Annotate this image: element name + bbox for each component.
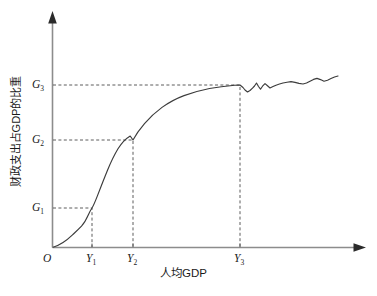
origin-label: O (43, 253, 51, 265)
x-tick-subscript-y1: 1 (92, 258, 96, 267)
x-tick-label-y3: Y3 (234, 253, 244, 265)
y-tick-subscript-g3: 3 (40, 84, 44, 93)
y-tick-subscript-g1: 1 (40, 207, 44, 216)
x-axis-arrow-icon (354, 243, 367, 252)
y-tick-label-g1: G1 (32, 202, 44, 214)
guide-line-g1-y1 (53, 208, 92, 247)
x-tick-subscript-y3: 3 (240, 258, 244, 267)
y-axis-title: 财政支出占GDP的比重 (11, 72, 22, 192)
chart-plot-area (0, 0, 377, 296)
guide-line-g3-y3 (53, 85, 240, 247)
chart-figure: G3 G2 G1 O Y1 Y2 Y3 人均GDP 财政支出占GDP的比重 (0, 0, 377, 296)
wagner-law-curve (53, 76, 338, 247)
y-tick-label-g2: G2 (32, 134, 44, 146)
x-tick-subscript-y2: 2 (133, 258, 137, 267)
y-axis-arrow-icon (48, 11, 57, 24)
x-tick-label-y2: Y2 (127, 253, 137, 265)
x-axis-title: 人均GDP (160, 268, 207, 280)
y-tick-label-g3: G3 (32, 79, 44, 91)
guide-line-g2-y2 (53, 140, 133, 247)
y-tick-subscript-g2: 2 (40, 139, 44, 148)
x-tick-label-y1: Y1 (86, 253, 96, 265)
